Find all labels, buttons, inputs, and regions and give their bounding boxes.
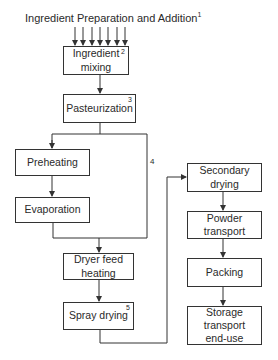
box-label: Dryer feed heating	[74, 253, 123, 279]
box-label: Storage transport end-use	[204, 306, 245, 345]
box-label: Powder transport	[204, 212, 245, 238]
box-ingredient-mixing: Ingredient mixing 2	[63, 46, 129, 75]
box-dryer-feed-heating: Dryer feed heating	[63, 253, 134, 280]
step-number: 5	[126, 304, 130, 313]
box-evaporation: Evaporation	[15, 197, 90, 223]
input-arrows	[75, 27, 125, 45]
step-number: 2	[121, 48, 125, 57]
box-storage-transport-end-use: Storage transport end-use	[187, 306, 262, 345]
box-packing: Packing	[187, 258, 262, 287]
box-spray-drying: Spray drying 5	[63, 302, 134, 330]
box-label: Ingredient mixing	[73, 47, 120, 73]
box-secondary-drying: Secondary drying	[187, 163, 262, 192]
box-label: Pasteurization	[66, 102, 133, 115]
bypass-step-number: 4	[150, 157, 154, 166]
box-pasteurization: Pasteurization 3	[63, 94, 136, 123]
box-label: Secondary drying	[199, 164, 249, 190]
box-label: Evaporation	[24, 203, 80, 216]
box-label: Packing	[206, 266, 243, 279]
box-preheating: Preheating	[15, 149, 90, 176]
box-label: Spray drying	[69, 309, 128, 322]
box-label: Preheating	[27, 156, 78, 169]
box-powder-transport: Powder transport	[187, 211, 262, 239]
step-number: 3	[128, 96, 132, 105]
